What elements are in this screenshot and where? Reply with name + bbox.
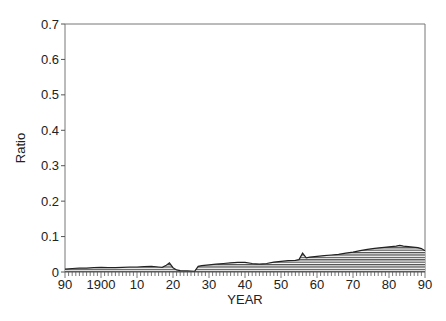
x-tick-label: 90	[418, 277, 432, 292]
x-tick-label: 70	[346, 277, 360, 292]
x-tick-label: 30	[202, 277, 216, 292]
x-tick-label: 90	[58, 277, 72, 292]
data-area	[65, 245, 425, 272]
y-tick-label: 0.4	[41, 123, 59, 138]
y-tick-label: 0.2	[41, 194, 59, 209]
x-tick-label: 60	[310, 277, 324, 292]
x-tick-label: 40	[238, 277, 252, 292]
x-tick-label: 1900	[87, 277, 116, 292]
x-tick-label: 50	[274, 277, 288, 292]
x-axis-title: YEAR	[227, 292, 262, 307]
ratio-area-chart: 00.10.20.30.40.50.60.7 90190010203040506…	[0, 0, 446, 321]
y-tick-label: 0.3	[41, 158, 59, 173]
plot-frame	[65, 24, 425, 272]
y-axis: 00.10.20.30.40.50.60.7	[41, 17, 65, 280]
x-axis: 901900102030405060708090	[58, 272, 432, 292]
y-tick-label: 0.1	[41, 229, 59, 244]
y-tick-label: 0.7	[41, 17, 59, 32]
y-axis-title: Ratio	[13, 133, 28, 163]
x-tick-label: 20	[166, 277, 180, 292]
y-tick-label: 0.5	[41, 87, 59, 102]
x-tick-label: 80	[382, 277, 396, 292]
y-tick-label: 0.6	[41, 52, 59, 67]
x-tick-label: 10	[130, 277, 144, 292]
